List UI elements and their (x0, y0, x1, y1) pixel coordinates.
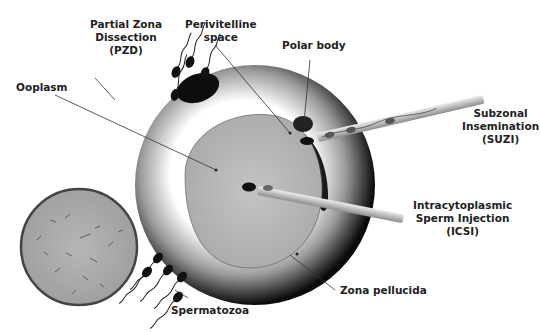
ivf-diagram (0, 0, 540, 332)
polar-body (293, 116, 313, 132)
label-icsi: Intracytoplasmic Sperm Injection (ICSI) (413, 199, 512, 238)
micrograph-spermatozoa (21, 189, 137, 305)
ooplasm (185, 114, 322, 268)
label-ooplasm: Ooplasm (16, 81, 68, 94)
label-suzi: Subzonal Insemination (SUZI) (462, 107, 539, 146)
label-polar-body: Polar body (282, 39, 346, 52)
sperm-head-icsi (242, 183, 256, 192)
sperm-head-suzi (300, 137, 314, 145)
label-zona-pellucida: Zona pellucida (340, 284, 427, 297)
label-perivitelline-space: Perivitelline space (185, 18, 257, 44)
label-spermatozoa: Spermatozoa (171, 304, 249, 317)
label-pzd: Partial Zona Dissection (PZD) (90, 18, 162, 57)
